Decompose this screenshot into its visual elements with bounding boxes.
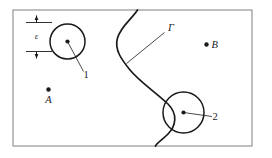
- gamma-label: Γ: [167, 22, 175, 33]
- epsilon-bottom-arrowhead-icon: [35, 54, 39, 58]
- epsilon-label: ε: [35, 31, 39, 41]
- figure-container: Γ 1 2 A B ε: [0, 0, 272, 158]
- point-a-dot: [46, 87, 50, 91]
- circle-1-leader-line: [68, 42, 84, 72]
- circle-2-leader-line: [184, 113, 213, 117]
- diagram-frame: [13, 10, 252, 146]
- geometric-diagram: Γ 1 2 A B ε: [0, 0, 272, 158]
- gamma-leader-line: [127, 33, 165, 64]
- point-b-dot: [204, 42, 208, 46]
- gamma-curve: [117, 10, 175, 146]
- epsilon-top-arrowhead-icon: [35, 16, 39, 20]
- point-a-label: A: [44, 94, 52, 105]
- point-b-label: B: [212, 39, 219, 50]
- circle-1-label: 1: [83, 69, 88, 80]
- circle-2-label: 2: [212, 111, 217, 122]
